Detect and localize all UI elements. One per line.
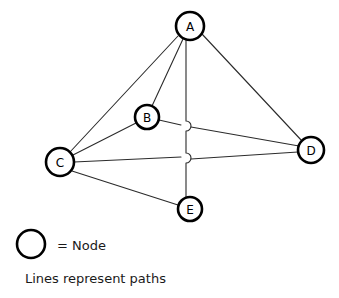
- legend-node-text: = Node: [57, 238, 106, 253]
- node-c[interactable]: C: [46, 148, 74, 176]
- edge-a-b: [152, 39, 183, 106]
- edges-group: [70, 34, 302, 205]
- edge-c-e: [72, 171, 178, 205]
- node-a-label: A: [186, 20, 195, 34]
- node-d[interactable]: D: [298, 137, 324, 163]
- diagram-root: A B C D E = Node Lines rep: [0, 0, 339, 298]
- legend-node-circle-icon: [17, 230, 45, 258]
- graph-canvas: A B C D E = Node Lines rep: [0, 0, 339, 298]
- edge-a-c: [70, 36, 178, 152]
- edge-c-d: [74, 157, 181, 162]
- legend-paths-caption: Lines represent paths: [25, 271, 166, 286]
- node-e-label: E: [186, 203, 194, 217]
- edge-b-d: [159, 120, 181, 125]
- legend-group: = Node Lines represent paths: [17, 230, 166, 286]
- node-c-label: C: [56, 156, 64, 170]
- node-e[interactable]: E: [178, 197, 202, 221]
- node-b[interactable]: B: [135, 105, 159, 129]
- edge-a-e: [186, 40, 191, 197]
- node-b-label: B: [143, 111, 151, 125]
- node-d-label: D: [306, 144, 315, 158]
- nodes-group: A B C D E: [46, 12, 324, 221]
- node-a[interactable]: A: [176, 12, 204, 40]
- edge-b-d-right: [191, 127, 299, 146]
- edge-a-d: [202, 34, 302, 141]
- edge-c-d-right: [191, 152, 298, 159]
